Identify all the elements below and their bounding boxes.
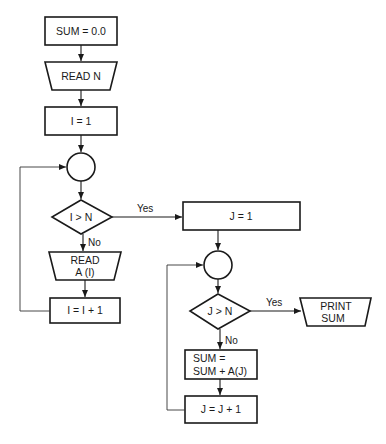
node-init-sum-label: SUM = 0.0 — [56, 25, 106, 37]
flowchart-canvas: SUM = 0.0 READ N I = 1 I > N Yes No READ… — [0, 0, 386, 444]
node-read-a-line2: A (I) — [75, 266, 94, 278]
edge-label-i-yes: Yes — [137, 203, 153, 214]
arrow-loop-j — [167, 265, 203, 410]
node-accumulate-line2: SUM + A(J) — [193, 365, 247, 377]
node-incr-j-label: J = J + 1 — [201, 403, 241, 415]
edge-label-i-no: No — [88, 237, 101, 248]
node-incr-i: I = I + 1 — [50, 298, 120, 323]
node-init-i: I = 1 — [45, 107, 117, 135]
node-decision-i: I > N — [52, 200, 112, 234]
node-read-a: READ A (I) — [49, 252, 121, 280]
node-init-j: J = 1 — [183, 202, 300, 230]
node-init-i-label: I = 1 — [71, 115, 92, 127]
connector-2 — [204, 251, 232, 279]
node-print-sum-line2: SUM — [321, 312, 344, 324]
node-decision-j: J > N — [190, 294, 250, 329]
node-decision-i-label: I > N — [70, 211, 92, 223]
node-print-sum-line1: PRINT — [320, 300, 352, 312]
node-decision-j-label: J > N — [208, 305, 233, 317]
edge-label-j-yes: Yes — [266, 297, 282, 308]
connector-1 — [67, 153, 95, 181]
node-init-sum: SUM = 0.0 — [45, 17, 117, 45]
edge-label-j-no: No — [225, 335, 238, 346]
node-read-n-label: READ N — [61, 70, 101, 82]
node-accumulate-line1: SUM = — [193, 352, 225, 364]
node-init-j-label: J = 1 — [229, 210, 252, 222]
node-incr-i-label: I = I + 1 — [67, 304, 103, 316]
node-read-n: READ N — [45, 62, 117, 90]
node-read-a-line1: READ — [70, 254, 100, 266]
node-incr-j: J = J + 1 — [185, 396, 257, 423]
arrow-loop-i — [20, 167, 66, 311]
node-print-sum: PRINT SUM — [300, 298, 371, 326]
node-accumulate: SUM = SUM + A(J) — [185, 350, 257, 379]
